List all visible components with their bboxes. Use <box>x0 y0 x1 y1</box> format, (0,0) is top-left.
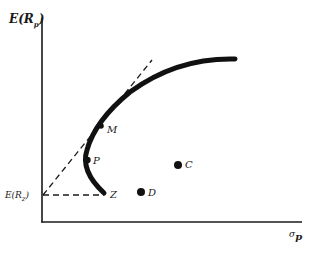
point-d-label: D <box>147 187 156 198</box>
risk-free-label: E(Rz) <box>4 190 30 203</box>
point-d-marker <box>137 188 145 196</box>
efficient-frontier-diagram: E(Rp) σp E(Rz) M P Z C D <box>0 0 320 253</box>
point-p-label: P <box>92 155 100 166</box>
point-p-marker <box>84 157 90 163</box>
y-axis-label: E(Rp) <box>8 12 44 29</box>
point-z-label: Z <box>109 189 118 200</box>
point-c-label: C <box>185 159 193 170</box>
x-axis-label: σp <box>289 229 302 242</box>
point-c-marker <box>174 161 182 169</box>
point-m-marker <box>98 123 104 129</box>
point-m-label: M <box>106 124 118 135</box>
